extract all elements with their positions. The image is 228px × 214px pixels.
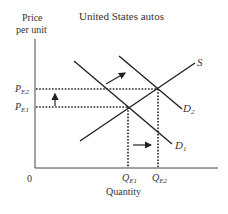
x-axis-label: Quantity — [106, 186, 141, 197]
supply-curve — [80, 63, 195, 141]
supply-label: S — [197, 56, 203, 68]
quantity-e2-label: QE2 — [152, 172, 168, 185]
d1-label: D1 — [174, 139, 186, 153]
quantity-e1-label: QE1 — [122, 172, 137, 185]
y-axis-label-line2: per unit — [16, 24, 47, 35]
demand-curve-d2 — [119, 56, 182, 109]
price-e2-label: PE2 — [14, 83, 29, 96]
price-e1-label: PE1 — [14, 101, 29, 114]
y-axis-label-line1: Price — [22, 12, 43, 23]
demand-shift-arrow — [106, 73, 125, 84]
supply-demand-diagram: United States autos Price per unit Quant… — [0, 0, 228, 214]
diagram-title: United States autos — [79, 10, 164, 22]
origin-label: 0 — [27, 173, 32, 184]
d2-label: D2 — [182, 102, 195, 116]
